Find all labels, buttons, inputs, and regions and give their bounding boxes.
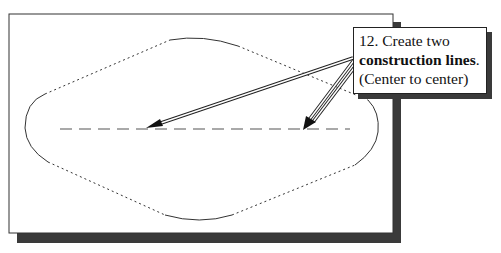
callout-emphasis-line: construction lines. xyxy=(359,50,482,69)
callout-step-text: 12. Create two xyxy=(359,31,482,50)
callout-note: (Center to center) xyxy=(359,69,482,88)
drawing-frame xyxy=(9,14,393,233)
callout-period: . xyxy=(476,51,480,68)
callout-bold-term: construction lines xyxy=(359,51,476,68)
instruction-callout: 12. Create two construction lines. (Cent… xyxy=(353,27,487,94)
frame-shadow-bottom xyxy=(17,233,401,243)
